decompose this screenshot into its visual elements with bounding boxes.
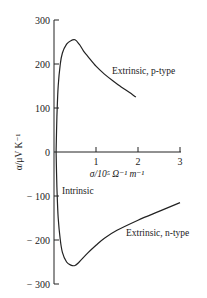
y-tick-label: − 300 — [27, 279, 50, 290]
y-tick-label: − 200 — [27, 235, 50, 246]
y-tick-label: − 100 — [27, 191, 50, 202]
annotation-intrinsic: Intrinsic — [62, 186, 94, 196]
x-axis-title: σ/10⁵ Ω⁻¹ m⁻¹ — [90, 169, 144, 179]
y-tick-label: 300 — [35, 15, 50, 26]
y-tick-labels: 300 200 100 0 − 100 − 200 − 300 — [27, 15, 50, 290]
y-tick-label: 0 — [45, 147, 50, 158]
x-tick-label: 2 — [136, 156, 141, 167]
series-p-type-curve — [56, 40, 136, 152]
y-tick-label: 200 — [35, 59, 50, 70]
x-tick-label: 3 — [178, 156, 183, 167]
x-tick-label: 1 — [94, 156, 99, 167]
annotation-n-type: Extrinsic, n-type — [126, 228, 189, 238]
annotation-p-type: Extrinsic, p-type — [112, 66, 175, 76]
seebeck-chart: 300 200 100 0 − 100 − 200 − 300 1 2 3 σ/… — [0, 0, 207, 298]
x-tick-labels: 1 2 3 — [94, 156, 183, 167]
y-axis-title: α/μV K⁻¹ — [14, 134, 24, 171]
x-ticks — [96, 147, 180, 152]
y-tick-label: 100 — [35, 103, 50, 114]
